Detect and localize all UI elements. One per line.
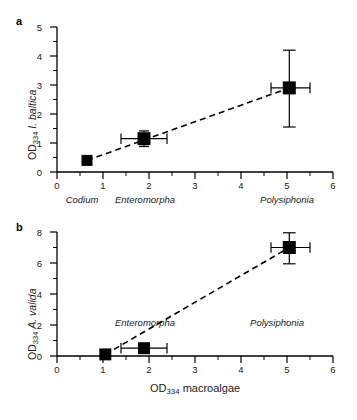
panel-b-datapoint-enteromorpha	[121, 342, 167, 354]
panel-b-y-major-ticks	[50, 232, 57, 356]
panel-b-plot-area	[0, 208, 357, 420]
figure-container: a OD334 I. baltica 0 1 2 3 4 5 0 1 2 3 4…	[0, 0, 357, 420]
panel-b-datapoint-codium	[99, 348, 111, 360]
panel-b-x-major-ticks	[57, 356, 333, 363]
panel-a-datapoint-polysiphonia	[271, 50, 310, 127]
panel-b-trend-line	[105, 248, 289, 355]
panel-a-datapoint-enteromorpha	[121, 131, 167, 147]
panel-a-datapoint-codium	[82, 155, 93, 166]
panel-b: b OD334 A. valida OD334 macroalgae 0 2 4…	[0, 208, 357, 420]
panel-a-plot-area	[0, 0, 357, 212]
panel-a: a OD334 I. baltica 0 1 2 3 4 5 0 1 2 3 4…	[0, 0, 357, 212]
panel-a-trend-line	[87, 88, 289, 160]
panel-a-x-major-ticks	[57, 172, 333, 179]
panel-b-datapoint-polysiphonia	[271, 233, 310, 264]
